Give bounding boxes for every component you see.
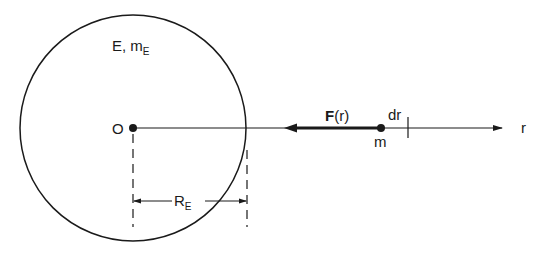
diagram-canvas: E, mE O F(r) m dr r RE (0, 0, 548, 263)
origin-point (129, 124, 137, 132)
dr-label: dr (388, 106, 401, 123)
origin-label: O (112, 120, 124, 137)
mass-label: m (374, 133, 387, 150)
axis-label: r (521, 119, 526, 136)
force-arrowhead (284, 124, 297, 133)
mass-point (377, 124, 385, 132)
radius-label: RE (174, 192, 192, 212)
earth-label: E, mE (112, 37, 150, 57)
force-label: F(r) (325, 107, 349, 124)
